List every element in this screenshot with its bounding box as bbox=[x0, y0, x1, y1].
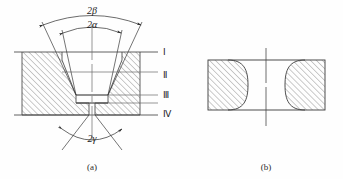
angle-label-beta: 2β bbox=[87, 5, 97, 16]
material-region-right-b bbox=[281, 58, 327, 112]
angle-label-gamma: 2γ bbox=[88, 133, 98, 144]
zone-marker-2: Ⅱ bbox=[163, 70, 167, 80]
panel-b-caption: (b) bbox=[261, 162, 272, 172]
zone-marker-4: Ⅳ bbox=[163, 109, 172, 119]
zone-marker-1: Ⅰ bbox=[163, 47, 166, 57]
panel-b: (b) bbox=[206, 48, 327, 172]
angle-label-alpha: 2α bbox=[87, 19, 98, 30]
zone-marker-3: Ⅲ bbox=[163, 90, 169, 100]
material-region-left-b bbox=[206, 58, 252, 112]
engineering-drawing-figure: 2β 2α 2γ Ⅰ Ⅱ Ⅲ Ⅳ (a) bbox=[0, 0, 343, 179]
panel-a-caption: (a) bbox=[87, 162, 97, 172]
panel-a: 2β 2α 2γ Ⅰ Ⅱ Ⅲ Ⅳ (a) bbox=[14, 5, 172, 172]
